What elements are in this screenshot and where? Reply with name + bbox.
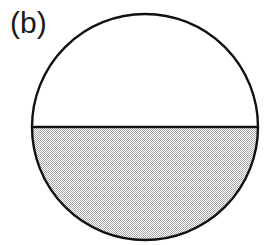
figure-panel: (b): [0, 0, 268, 245]
panel-label: (b): [10, 6, 47, 40]
